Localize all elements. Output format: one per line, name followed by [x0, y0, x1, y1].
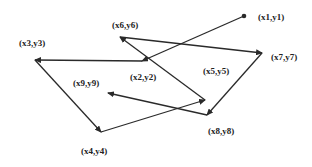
point-label-p9: (x9,y9) — [73, 78, 99, 88]
point-label-p2: (x2,y2) — [130, 72, 156, 82]
point-label-p6: (x6,y6) — [112, 20, 138, 30]
point-label-p3: (x3,y3) — [19, 38, 45, 48]
edge-p4-to-p5 — [101, 100, 205, 132]
path-diagram: (x1,y1)(x2,y2)(x3,y3)(x4,y4)(x5,y5)(x6,y… — [0, 0, 312, 167]
marker-group — [242, 14, 247, 19]
start-dot-icon — [242, 14, 247, 19]
point-label-p5: (x5,y5) — [203, 66, 229, 76]
point-label-p4: (x4,y4) — [81, 146, 107, 156]
point-label-p7: (x7,y7) — [271, 52, 297, 62]
point-label-p1: (x1,y1) — [258, 12, 284, 22]
label-group: (x1,y1)(x2,y2)(x3,y3)(x4,y4)(x5,y5)(x6,y… — [19, 12, 297, 156]
point-label-p8: (x8,y8) — [208, 126, 234, 136]
edge-p5-to-p6 — [120, 37, 205, 100]
edge-p1-to-p2 — [142, 16, 244, 61]
edge-p7-to-p8 — [207, 53, 262, 115]
edge-p2-to-p3 — [35, 60, 142, 61]
edge-p3-to-p4 — [35, 60, 101, 132]
